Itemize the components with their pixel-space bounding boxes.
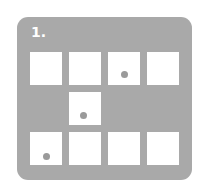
dot-marker [121, 71, 128, 78]
figure-label: 1. [31, 25, 46, 39]
dot-marker [43, 153, 50, 160]
grid-cell-r3-c1 [30, 132, 62, 165]
grid-cell-r1-c2 [69, 52, 101, 85]
puzzle-panel: 1. [17, 17, 192, 180]
grid-cell-r3-c4 [147, 132, 179, 165]
grid-cell-r1-c4 [147, 52, 179, 85]
grid-cell-r3-c2 [69, 132, 101, 165]
dot-marker [80, 112, 87, 119]
grid-cell-r2-c2 [69, 92, 101, 125]
grid-cell-r3-c3 [108, 132, 140, 165]
grid-cell-r1-c3 [108, 52, 140, 85]
grid-cell-r1-c1 [30, 52, 62, 85]
